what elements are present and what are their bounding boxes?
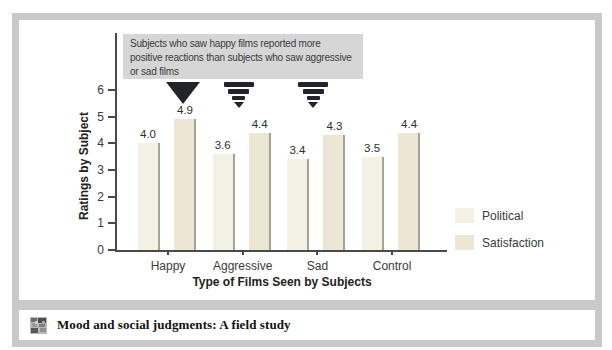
legend-label-political: Political — [482, 209, 523, 223]
bar-political-control — [362, 157, 384, 250]
bar-satisfaction-sad — [323, 135, 345, 250]
down-arrow-striped-icon — [224, 82, 254, 108]
chart-panel: Subjects who saw happy films reported mo… — [19, 20, 595, 300]
y-tick-label: 0 — [80, 243, 104, 257]
bar-value-label: 3.4 — [281, 144, 313, 156]
bar-political-happy — [138, 143, 160, 250]
y-axis-line — [115, 33, 117, 251]
arrow-stripe — [298, 82, 328, 87]
x-tick-mark — [391, 250, 393, 255]
figure-frame: Subjects who saw happy films reported mo… — [12, 13, 602, 347]
figure-page: Subjects who saw happy films reported mo… — [0, 0, 612, 350]
y-tick-mark — [108, 89, 115, 91]
arrow-stripe — [232, 96, 245, 100]
legend-swatch-satisfaction — [455, 235, 474, 250]
bar-satisfaction-happy — [174, 119, 196, 250]
x-tick-mark — [316, 250, 318, 255]
bar-value-label: 3.5 — [356, 142, 388, 154]
y-tick-mark — [108, 142, 115, 144]
y-tick-mark — [108, 222, 115, 224]
bar-value-label: 4.9 — [169, 104, 201, 116]
bar-value-label: 4.4 — [393, 118, 425, 130]
x-tick-mark — [167, 250, 169, 255]
arrow-stripe — [224, 82, 254, 87]
bar-value-label: 4.4 — [244, 118, 276, 130]
y-tick-mark — [108, 116, 115, 118]
bar-political-sad — [287, 159, 309, 250]
arrow-stripe — [307, 96, 320, 100]
caption-divider — [19, 300, 595, 310]
bar-satisfaction-aggressive — [249, 133, 271, 250]
y-tick-label: 6 — [80, 83, 104, 97]
y-tick-mark — [108, 249, 115, 251]
arrow-tip — [308, 102, 318, 108]
bar-value-label: 4.3 — [318, 120, 350, 132]
y-axis-title: Ratings by Subject — [77, 101, 91, 231]
legend-swatch-political — [455, 208, 474, 223]
y-tick-mark — [108, 196, 115, 198]
caption-title: Mood and social judgments: A field study — [57, 317, 291, 333]
category-label: Control — [347, 259, 437, 273]
x-axis-line — [115, 250, 447, 252]
annotation-callout: Subjects who saw happy films reported mo… — [123, 34, 363, 79]
bar-value-label: 3.6 — [207, 139, 239, 151]
down-arrow-striped-icon — [298, 82, 328, 108]
bar-satisfaction-control — [398, 133, 420, 250]
down-arrow-solid-icon — [166, 82, 200, 104]
legend-label-satisfaction: Satisfaction — [482, 236, 544, 250]
arrow-stripe — [303, 89, 324, 94]
arrow-stripe — [228, 89, 249, 94]
x-axis-title: Type of Films Seen by Subjects — [116, 275, 448, 289]
caption-row: Mood and social judgments: A field study — [19, 310, 595, 340]
arrow-tip — [234, 102, 244, 108]
bar-political-aggressive — [213, 154, 235, 250]
x-tick-mark — [242, 250, 244, 255]
thumbnail-icon — [30, 317, 47, 334]
bar-value-label: 4.0 — [132, 128, 164, 140]
y-tick-mark — [108, 169, 115, 171]
